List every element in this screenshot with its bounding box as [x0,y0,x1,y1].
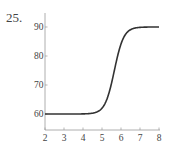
chart: 234567860708090 [0,0,172,148]
x-tick-label: 3 [62,133,67,143]
x-tick-label: 4 [81,133,86,143]
x-tick-label: 2 [43,133,48,143]
y-tick-label: 60 [34,109,44,119]
y-tick-label: 70 [34,80,44,90]
y-tick-label: 80 [34,51,44,61]
y-tick-label: 90 [34,22,44,32]
data-curve [45,27,159,114]
tick-labels: 234567860708090 [34,22,162,143]
axes [45,13,160,130]
x-tick-label: 7 [138,133,143,143]
x-tick-label: 8 [157,133,162,143]
x-tick-label: 6 [119,133,124,143]
x-tick-label: 5 [100,133,105,143]
